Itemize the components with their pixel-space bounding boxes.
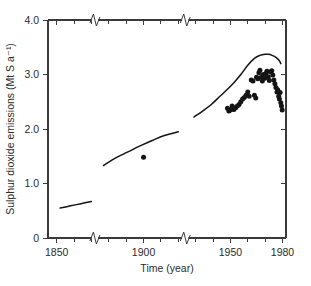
data-point-0 [141, 155, 146, 160]
sulphur-dioxide-emissions-chart: 01.02.03.04.0 1850190019501980 Time (yea… [0, 0, 311, 286]
data-point-13 [245, 89, 250, 94]
data-point-32 [269, 68, 274, 73]
data-point-41 [278, 90, 283, 95]
data-point-44 [280, 107, 285, 112]
y-tick-label-3: 3.0 [24, 68, 39, 80]
y-axis-title: Sulphur dioxide emissions (Mt S a⁻¹) [4, 43, 16, 215]
x-tick-label-2: 1950 [219, 246, 243, 258]
figure-container: 01.02.03.04.0 1850190019501980 Time (yea… [0, 0, 311, 286]
x-axis-tick-labels: 1850190019501980 [45, 246, 294, 258]
x-tick-label-3: 1980 [271, 246, 295, 258]
y-tick-label-0: 0 [33, 232, 39, 244]
y-tick-label-4: 4.0 [24, 14, 39, 26]
data-point-18 [253, 95, 258, 100]
data-point-14 [247, 94, 252, 99]
y-tick-label-2: 2.0 [24, 123, 39, 135]
data-point-22 [257, 68, 262, 73]
y-tick-label-1: 1.0 [24, 177, 39, 189]
data-point-33 [270, 73, 275, 78]
x-axis-title: Time (year) [140, 262, 193, 274]
x-tick-label-0: 1850 [45, 246, 69, 258]
x-tick-label-1: 1900 [132, 246, 156, 258]
y-axis-tick-labels: 01.02.03.04.0 [24, 14, 39, 244]
data-point-16 [250, 79, 255, 84]
data-point-30 [267, 78, 272, 83]
plot-area-background [48, 20, 286, 238]
